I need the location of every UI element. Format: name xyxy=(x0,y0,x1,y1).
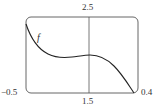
function-plot xyxy=(0,0,156,108)
x-min-label: −0.5 xyxy=(1,88,17,97)
x-max-label: 0.4 xyxy=(141,88,152,97)
y-max-label: 2.5 xyxy=(82,3,93,12)
viewing-frame xyxy=(26,17,138,93)
function-name-label: f xyxy=(37,32,40,43)
curve-f xyxy=(26,24,134,93)
y-min-label: 1.5 xyxy=(82,97,93,106)
